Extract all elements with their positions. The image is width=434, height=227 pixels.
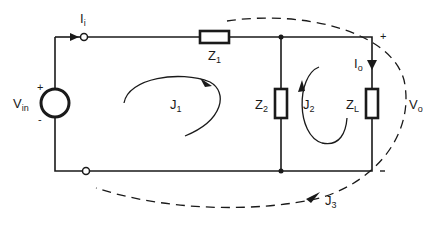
junction-top bbox=[279, 35, 284, 40]
impedance-z1 bbox=[200, 31, 229, 43]
output-current-label: Io bbox=[354, 57, 363, 73]
output-current-arrow-icon bbox=[367, 60, 377, 70]
circuit-diagram bbox=[0, 0, 434, 227]
input-current-label: Ii bbox=[80, 12, 86, 28]
input-terminal-top bbox=[81, 34, 88, 41]
loop-j2-label: J2 bbox=[303, 98, 315, 114]
source-minus-sign: - bbox=[38, 114, 42, 125]
left-wire-bottom bbox=[55, 117, 82, 171]
input-terminal-bottom bbox=[83, 168, 90, 175]
loop-j3-arrowhead-icon bbox=[306, 192, 320, 203]
source-plus-sign: + bbox=[37, 82, 43, 93]
output-plus-sign: + bbox=[380, 31, 386, 42]
z1-label: Z1 bbox=[208, 49, 221, 65]
loop-j1-label: J1 bbox=[170, 98, 182, 114]
impedance-z2 bbox=[275, 89, 287, 118]
output-voltage-label: Vo bbox=[409, 98, 423, 114]
impedance-zl bbox=[366, 89, 378, 118]
input-current-arrow-icon bbox=[70, 33, 79, 41]
voltage-source-icon bbox=[41, 89, 69, 117]
z2-label: Z2 bbox=[255, 98, 268, 114]
source-label: Vin bbox=[13, 97, 29, 113]
loop-j3-icon bbox=[96, 18, 406, 207]
loop-j3-label: J3 bbox=[325, 194, 337, 210]
junction-bottom bbox=[279, 169, 284, 174]
bottom-wire bbox=[90, 118, 372, 171]
zl-label: ZL bbox=[346, 98, 359, 114]
top-wire-right bbox=[229, 37, 372, 89]
